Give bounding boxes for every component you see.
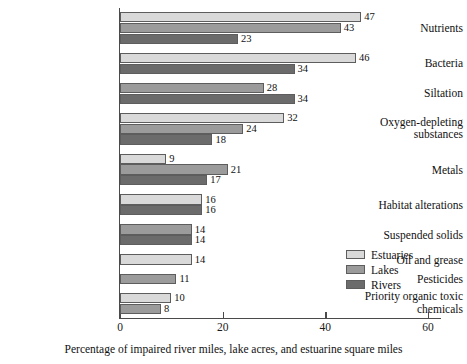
legend-item: Lakes xyxy=(346,263,413,276)
bar-lakes xyxy=(120,164,228,174)
bar-value-label: 14 xyxy=(192,254,206,265)
bar-value-label: 11 xyxy=(176,273,189,284)
bar-value-label: 9 xyxy=(166,153,174,164)
legend-swatch-lakes xyxy=(346,265,365,274)
legend-label: Lakes xyxy=(371,264,398,276)
bar-value-label: 18 xyxy=(212,134,226,145)
legend-label: Estuaries xyxy=(371,249,413,261)
x-tick-label: 40 xyxy=(320,321,332,333)
x-tick-label: 20 xyxy=(217,321,229,333)
x-axis-line xyxy=(119,318,441,319)
bar-value-label: 16 xyxy=(202,205,216,216)
bar-value-label: 23 xyxy=(238,33,252,44)
bar-value-label: 21 xyxy=(228,164,242,175)
bar-rivers xyxy=(120,134,212,144)
bar-estuaries xyxy=(120,12,361,22)
bar-lakes xyxy=(120,274,176,284)
bar-lakes xyxy=(120,83,264,93)
bar-value-label: 47 xyxy=(361,12,375,23)
legend-item: Rivers xyxy=(346,278,413,291)
bar-value-label: 32 xyxy=(284,113,298,124)
bar-value-label: 43 xyxy=(341,23,355,34)
bar-lakes xyxy=(120,124,243,134)
bar-lakes xyxy=(120,304,161,314)
bar-value-label: 14 xyxy=(192,235,206,246)
bar-value-label: 28 xyxy=(264,83,278,94)
bar-rivers xyxy=(120,235,192,245)
bar-rivers xyxy=(120,64,295,74)
bar-lakes xyxy=(120,23,341,33)
bar-estuaries xyxy=(120,113,284,123)
legend-swatch-rivers xyxy=(346,280,365,289)
bar-value-label: 8 xyxy=(161,303,169,314)
bar-estuaries xyxy=(120,154,166,164)
impaired-waters-bar-chart: 0204060 NutrientsBacteriaSiltationOxygen… xyxy=(0,0,467,364)
bar-rivers xyxy=(120,205,202,215)
bar-value-label: 34 xyxy=(295,93,309,104)
bar-value-label: 10 xyxy=(171,293,185,304)
bar-value-label: 34 xyxy=(295,63,309,74)
bar-rivers xyxy=(120,175,207,185)
bar-estuaries xyxy=(120,254,192,264)
bar-value-label: 46 xyxy=(356,53,370,64)
bar-value-label: 17 xyxy=(207,175,221,186)
bar-rivers xyxy=(120,34,238,44)
bar-estuaries xyxy=(120,53,356,63)
legend-swatch-estuaries xyxy=(346,250,365,259)
legend-label: Rivers xyxy=(371,279,401,291)
x-tick-label: 60 xyxy=(422,321,434,333)
bar-lakes xyxy=(120,224,192,234)
x-axis-caption: Percentage of impaired river miles, lake… xyxy=(0,343,467,355)
bar-estuaries xyxy=(120,194,202,204)
chart-legend: EstuariesLakesRivers xyxy=(346,248,413,293)
x-tick-label: 0 xyxy=(117,321,123,333)
bar-rivers xyxy=(120,94,295,104)
legend-item: Estuaries xyxy=(346,248,413,261)
bar-value-label: 24 xyxy=(243,123,257,134)
